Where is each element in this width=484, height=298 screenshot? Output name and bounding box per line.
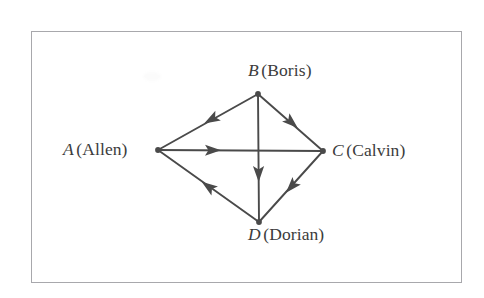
node-label-c: C(Calvin)	[332, 142, 405, 160]
figure-canvas: A(Allen) B(Boris) C(Calvin) D(Dorian)	[0, 0, 484, 298]
vertex-c	[320, 148, 326, 154]
node-name-d: (Dorian)	[263, 224, 324, 244]
node-letter-c: C	[332, 140, 346, 160]
node-letter-b: B	[248, 60, 261, 80]
node-name-b: (Boris)	[261, 60, 311, 80]
arrowhead-b-a	[201, 111, 220, 129]
edge-b-d	[258, 94, 259, 222]
node-name-c: (Calvin)	[346, 140, 405, 160]
node-name-a: (Allen)	[76, 139, 127, 159]
node-letter-a: A	[63, 139, 76, 159]
node-label-d: D(Dorian)	[248, 226, 324, 244]
edge-a-c	[158, 150, 323, 151]
vertex-a	[155, 147, 161, 153]
node-label-b: B(Boris)	[248, 62, 312, 80]
vertex-b	[255, 91, 261, 97]
node-label-a: A(Allen)	[63, 141, 128, 159]
node-letter-d: D	[248, 224, 263, 244]
